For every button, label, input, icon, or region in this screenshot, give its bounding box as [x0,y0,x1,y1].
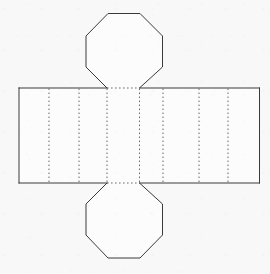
octagonal-prism-net-svg: Net of an octagonal prism Unfolded net: … [0,0,270,274]
net-diagram-canvas: Net of an octagonal prism Unfolded net: … [0,0,270,274]
